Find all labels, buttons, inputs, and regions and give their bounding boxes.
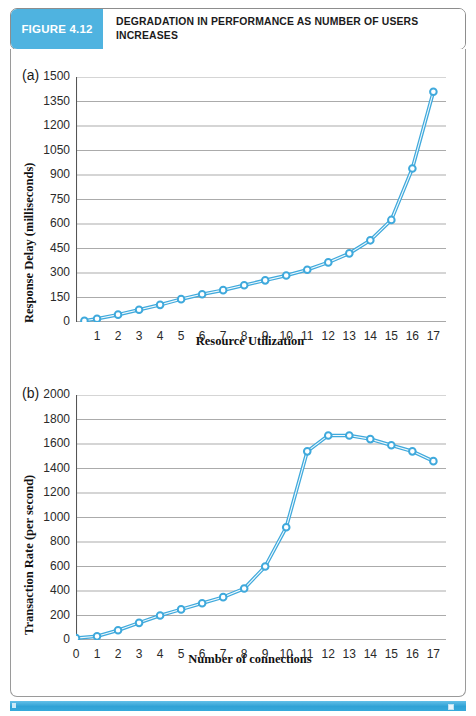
y-tick-label: 2000 bbox=[12, 387, 70, 401]
y-tick-label: 450 bbox=[12, 241, 70, 255]
y-tick-label: 1800 bbox=[12, 412, 70, 426]
data-point-marker bbox=[241, 585, 248, 592]
figure-root: FIGURE 4.12 DEGRADATION IN PERFORMANCE A… bbox=[0, 0, 476, 716]
data-point-marker bbox=[115, 627, 122, 634]
data-point-marker bbox=[115, 311, 122, 318]
data-point-marker bbox=[346, 432, 353, 439]
plot-area-b bbox=[76, 395, 446, 640]
data-point-marker bbox=[283, 272, 290, 279]
data-point-marker bbox=[262, 563, 269, 570]
data-point-marker bbox=[430, 458, 437, 465]
y-tick-label: 1000 bbox=[12, 510, 70, 524]
y-tick-label: 900 bbox=[12, 167, 70, 181]
plot-area-a bbox=[76, 77, 446, 322]
data-point-marker bbox=[304, 266, 311, 273]
data-point-marker bbox=[388, 442, 395, 449]
data-point-marker bbox=[388, 217, 395, 224]
y-tick-label: 600 bbox=[12, 559, 70, 573]
series-line-inner bbox=[76, 435, 433, 638]
y-tick-label: 0 bbox=[12, 314, 70, 328]
figure-number-badge: FIGURE 4.12 bbox=[11, 9, 103, 49]
data-point-marker bbox=[220, 594, 227, 601]
data-point-marker bbox=[199, 291, 206, 298]
y-tick-label: 600 bbox=[12, 216, 70, 230]
data-point-marker bbox=[81, 317, 88, 322]
chart-panel-b: (b) Transaction Rate (per second) Number… bbox=[0, 373, 476, 673]
y-tick-label: 1600 bbox=[12, 436, 70, 450]
y-tick-label: 1500 bbox=[12, 69, 70, 83]
y-tick-label: 400 bbox=[12, 583, 70, 597]
x-tick-label: 17 bbox=[421, 647, 445, 661]
footer-accent-dot bbox=[448, 704, 454, 710]
data-point-marker bbox=[283, 524, 290, 531]
x-tick-label: 17 bbox=[421, 329, 445, 343]
data-point-marker bbox=[94, 315, 101, 322]
y-tick-label: 1200 bbox=[12, 118, 70, 132]
data-point-marker bbox=[136, 620, 143, 627]
y-tick-label: 1200 bbox=[12, 485, 70, 499]
series-line-outer bbox=[76, 435, 433, 638]
data-point-marker bbox=[157, 612, 164, 619]
chart-svg-a bbox=[76, 77, 446, 322]
data-point-marker bbox=[409, 448, 416, 455]
data-point-marker bbox=[325, 259, 332, 266]
y-tick-label: 300 bbox=[12, 265, 70, 279]
data-point-marker bbox=[346, 250, 353, 257]
figure-number-label: FIGURE 4.12 bbox=[21, 23, 92, 35]
footer-accent-bar bbox=[10, 701, 466, 711]
data-point-marker bbox=[241, 282, 248, 289]
data-point-marker bbox=[76, 635, 79, 640]
data-point-marker bbox=[430, 88, 437, 95]
data-point-marker bbox=[178, 606, 185, 613]
y-tick-label: 1350 bbox=[12, 94, 70, 108]
y-tick-label: 150 bbox=[12, 290, 70, 304]
data-point-marker bbox=[367, 237, 374, 244]
data-point-marker bbox=[367, 436, 374, 443]
chart-panel-a: (a) Response Delay (milliseconds) Resour… bbox=[0, 55, 476, 355]
footer-accent-cap bbox=[12, 703, 16, 708]
y-tick-label: 200 bbox=[12, 608, 70, 622]
y-tick-label: 750 bbox=[12, 192, 70, 206]
y-tick-label: 1050 bbox=[12, 143, 70, 157]
data-point-marker bbox=[178, 296, 185, 303]
data-point-marker bbox=[157, 302, 164, 309]
data-point-marker bbox=[304, 448, 311, 455]
y-tick-label: 0 bbox=[12, 632, 70, 646]
data-point-marker bbox=[136, 306, 143, 313]
data-point-marker bbox=[262, 277, 269, 284]
data-point-marker bbox=[220, 287, 227, 294]
data-point-marker bbox=[199, 600, 206, 607]
figure-header: FIGURE 4.12 DEGRADATION IN PERFORMANCE A… bbox=[10, 8, 466, 50]
data-point-marker bbox=[409, 165, 416, 172]
y-tick-label: 800 bbox=[12, 534, 70, 548]
figure-title-container: DEGRADATION IN PERFORMANCE AS NUMBER OF … bbox=[103, 9, 465, 49]
chart-svg-b bbox=[76, 395, 446, 640]
data-point-marker bbox=[94, 633, 101, 640]
data-point-marker bbox=[325, 432, 332, 439]
y-tick-label: 1400 bbox=[12, 461, 70, 475]
figure-title: DEGRADATION IN PERFORMANCE AS NUMBER OF … bbox=[116, 15, 457, 43]
